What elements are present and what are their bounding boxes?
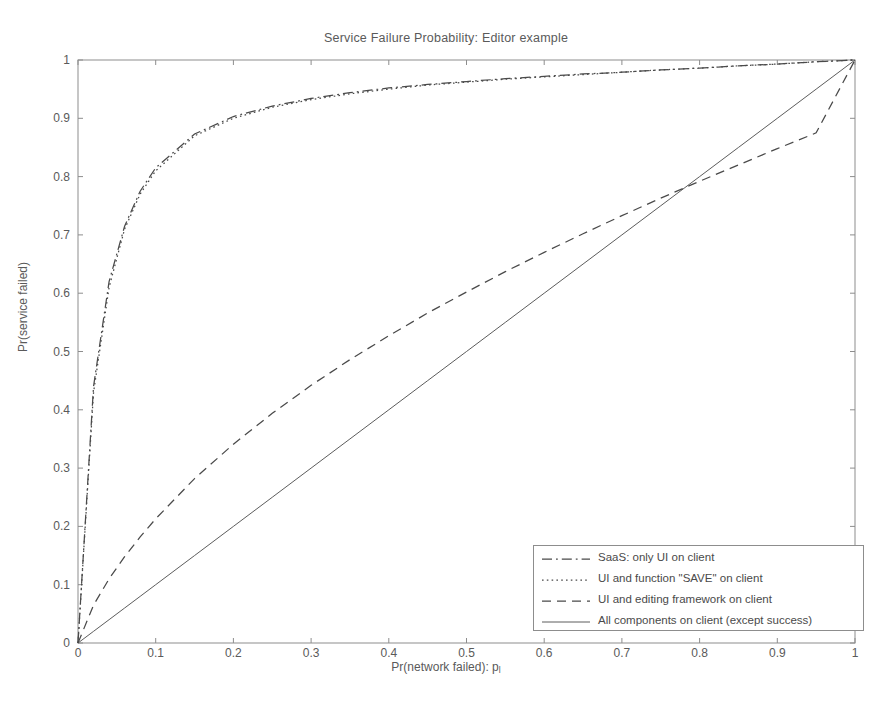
legend-item[interactable]: UI and function "SAVE" on client (534, 567, 863, 588)
x-tick-label: 0.3 (291, 646, 331, 660)
y-tick-label: 0.5 (36, 345, 70, 359)
x-tick-label: 0.1 (136, 646, 176, 660)
x-tick-label: 0.4 (369, 646, 409, 660)
y-tick-label: 0.8 (36, 170, 70, 184)
legend-label: UI and editing framework on client (598, 593, 772, 605)
legend-label: UI and function "SAVE" on client (598, 572, 763, 584)
y-tick-label: 0.6 (36, 286, 70, 300)
y-tick-label: 0.4 (36, 403, 70, 417)
x-tick-label: 0.5 (447, 646, 487, 660)
legend-item[interactable]: UI and editing framework on client (534, 588, 863, 609)
y-tick-label: 0.2 (36, 519, 70, 533)
x-tick-label: 0.8 (680, 646, 720, 660)
x-tick-label: 0.6 (524, 646, 564, 660)
legend-line-sample (540, 614, 592, 626)
x-tick-label: 0.9 (757, 646, 797, 660)
legend-line-sample (540, 593, 592, 605)
y-tick-label: 0.1 (36, 578, 70, 592)
y-tick-label: 0.7 (36, 228, 70, 242)
legend-line-sample (540, 572, 592, 584)
y-tick-label: 1 (36, 53, 70, 67)
chart-figure: Service Failure Probability: Editor exam… (0, 0, 892, 706)
legend-item[interactable]: All components on client (except success… (534, 609, 863, 630)
legend-line-sample (540, 551, 592, 563)
x-tick-label: 0.2 (213, 646, 253, 660)
y-tick-label: 0 (36, 636, 70, 650)
legend-label: SaaS: only UI on client (598, 551, 714, 563)
x-tick-label: 0.7 (602, 646, 642, 660)
legend-label: All components on client (except success… (598, 614, 812, 626)
y-tick-label: 0.9 (36, 111, 70, 125)
legend-item[interactable]: SaaS: only UI on client (534, 546, 863, 567)
x-tick-label: 1 (835, 646, 875, 660)
y-tick-label: 0.3 (36, 461, 70, 475)
chart-legend: SaaS: only UI on clientUI and function "… (533, 545, 864, 631)
